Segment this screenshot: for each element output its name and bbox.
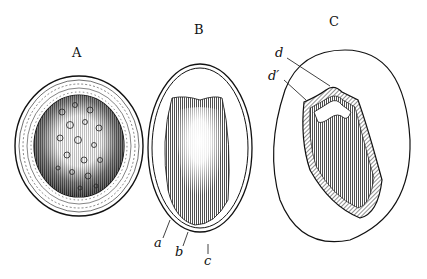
panel-c: C d d′ (268, 14, 410, 242)
panel-label-a: A (71, 45, 82, 60)
panel-b: B a b c (148, 22, 252, 268)
callout-label-b: b (175, 244, 183, 259)
callout-label-d: d (275, 45, 283, 60)
callout-label-a: a (154, 235, 162, 250)
panel-a: A (15, 45, 143, 216)
callout-label-d-prime: d′ (268, 68, 279, 83)
panel-label-c: C (329, 14, 339, 29)
callout-label-c: c (204, 253, 212, 268)
illustration: A B a b c C (0, 0, 427, 279)
panel-label-b: B (194, 22, 204, 37)
